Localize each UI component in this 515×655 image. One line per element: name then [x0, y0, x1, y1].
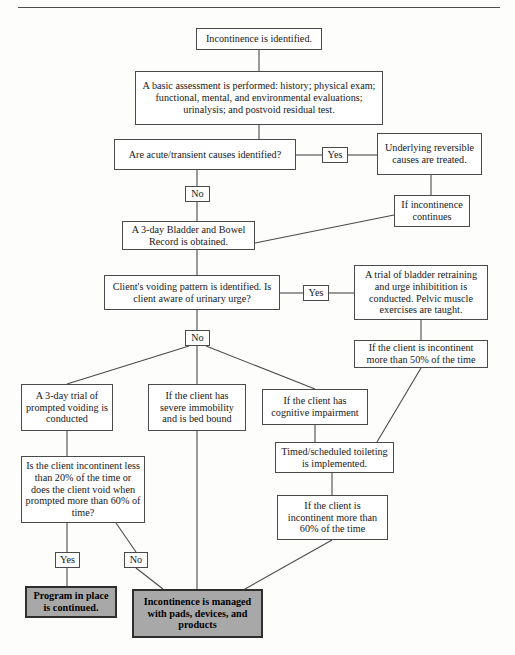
connector-no-to-managed-pads [136, 568, 163, 589]
edge-label-no-prompted-text: No [130, 555, 142, 565]
edge-label-yes-acute: Yes [322, 147, 348, 163]
connector-no-to-prompted-voiding [67, 346, 189, 384]
node-cognitive-impairment-label: If the client has cognitive impairment [266, 395, 364, 419]
edge-label-no-voiding: No [185, 330, 210, 346]
connector-incontinent60-to-managed [245, 540, 332, 589]
node-start: Incontinence is identified. [196, 28, 322, 50]
edge-label-no-acute: No [185, 186, 210, 202]
node-incontinent-60-percent: If the client is incontinent more than 6… [277, 495, 388, 540]
node-acute-question: Are acute/transient causes identified? [114, 139, 296, 170]
connector-question-to-no [116, 523, 136, 552]
node-prompted-voiding-label: A 3-day trial of prompted voiding is con… [25, 390, 109, 425]
node-acute-question-label: Are acute/transient causes identified? [129, 149, 281, 161]
node-timed-toileting-label: Timed/scheduled toileting is implemented… [279, 446, 390, 470]
node-prompted-question-label: Is the client incontinent less than 20% … [25, 460, 141, 519]
node-bladder-retraining: A trial of bladder retraining and urge i… [354, 265, 488, 320]
node-program-continued-label: Program in place is continued. [30, 590, 112, 614]
node-severe-immobility-label: If the client has severe immobility and … [152, 390, 242, 425]
connector-incontinent50-to-timed [377, 368, 421, 442]
node-prompted-voiding: A 3-day trial of prompted voiding is con… [21, 384, 113, 431]
edge-label-no-acute-text: No [191, 189, 203, 199]
edge-label-yes-prompted: Yes [55, 552, 80, 568]
edge-label-no-prompted: No [124, 552, 148, 568]
node-program-continued: Program in place is continued. [25, 586, 117, 618]
header-divider-rule [18, 7, 500, 8]
node-voiding-question: Client's voiding pattern is identified. … [104, 275, 280, 310]
node-managed-with-pads: Incontinence is managed with pads, devic… [132, 589, 263, 638]
edge-label-yes-prompted-text: Yes [60, 555, 75, 565]
node-managed-with-pads-label: Incontinence is managed with pads, devic… [137, 596, 258, 631]
node-if-incontinence-continues: If incontinence continues [394, 195, 470, 227]
node-cognitive-impairment: If the client has cognitive impairment [262, 389, 368, 425]
flowchart-page: Incontinence is identified. A basic asse… [0, 0, 515, 655]
node-bladder-record: A 3-day Bladder and Bowel Record is obta… [122, 221, 255, 250]
node-incontinent-50-percent: If the client is incontinent more than 5… [354, 340, 488, 368]
node-severe-immobility: If the client has severe immobility and … [148, 384, 246, 431]
edge-label-yes-voiding-text: Yes [309, 288, 324, 298]
node-reversible-treated-label: Underlying reversible causes are treated… [381, 142, 478, 166]
edge-label-yes-acute-text: Yes [328, 150, 343, 160]
node-bladder-retraining-label: A trial of bladder retraining and urge i… [358, 269, 484, 316]
node-if-incontinence-continues-label: If incontinence continues [398, 199, 466, 223]
connector-no-to-cognitive [206, 346, 315, 389]
node-assessment-label: A basic assessment is performed: history… [139, 80, 379, 115]
node-timed-toileting: Timed/scheduled toileting is implemented… [275, 442, 394, 473]
edge-label-yes-voiding: Yes [303, 285, 329, 301]
node-bladder-record-label: A 3-day Bladder and Bowel Record is obta… [126, 224, 251, 248]
node-start-label: Incontinence is identified. [206, 33, 312, 45]
node-reversible-treated: Underlying reversible causes are treated… [377, 133, 482, 175]
node-voiding-question-label: Client's voiding pattern is identified. … [108, 281, 276, 305]
edge-label-no-voiding-text: No [191, 333, 203, 343]
node-incontinent-60-percent-label: If the client is incontinent more than 6… [281, 500, 384, 535]
node-assessment: A basic assessment is performed: history… [135, 71, 383, 125]
node-prompted-question: Is the client incontinent less than 20% … [21, 456, 145, 523]
connector-if-continues-to-bladder-record [255, 215, 394, 243]
node-incontinent-50-percent-label: If the client is incontinent more than 5… [358, 342, 484, 366]
